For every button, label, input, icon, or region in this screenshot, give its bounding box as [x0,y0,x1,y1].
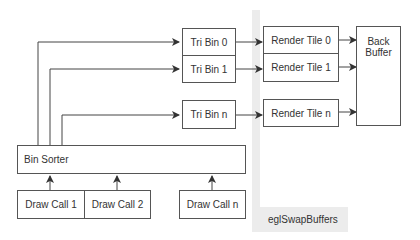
tri-bin-n: Tri Bin n [182,100,236,129]
tri-bin-1-label: Tri Bin 1 [191,64,228,75]
draw-call-n: Draw Call n [179,190,246,219]
draw-call-1: Draw Call 1 [17,190,85,219]
draw-call-2-label: Draw Call 2 [92,199,144,210]
bin-sorter: Bin Sorter [17,145,246,174]
draw-call-1-label: Draw Call 1 [25,199,77,210]
render-tile-1-label: Render Tile 1 [271,62,330,73]
back-buffer: Back Buffer [356,26,401,126]
draw-call-n-label: Draw Call n [187,199,239,210]
render-tile-n: Render Tile n [263,99,339,127]
render-tile-1: Render Tile 1 [263,53,339,82]
render-tile-0-label: Render Tile 0 [271,35,330,46]
render-tile-n-label: Render Tile n [271,108,330,119]
tri-bin-n-label: Tri Bin n [191,109,228,120]
tri-bin-0: Tri Bin 0 [182,28,236,56]
draw-call-2: Draw Call 2 [84,190,151,219]
tri-bin-1: Tri Bin 1 [182,55,236,83]
back-buffer-label-line2: Buffer [365,47,392,58]
bin-sorter-label: Bin Sorter [24,154,68,165]
tri-bin-0-label: Tri Bin 0 [191,37,228,48]
back-buffer-label-line1: Back [365,36,392,47]
render-tile-0: Render Tile 0 [263,26,339,54]
